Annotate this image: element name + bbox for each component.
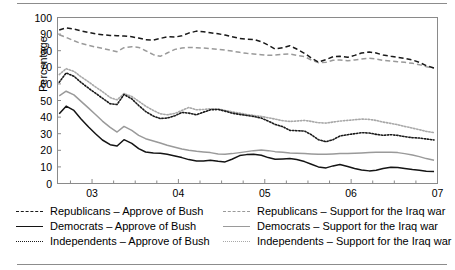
y-tick-label: 10 (26, 162, 52, 172)
legend-item: Democrats – Approve of Bush (16, 220, 223, 232)
y-tick-label: 40 (26, 112, 52, 122)
y-tick-label: 20 (26, 145, 52, 155)
chart-legend: Republicans – Approve of BushRepublicans… (16, 205, 444, 250)
legend-swatch (223, 222, 250, 231)
y-tick-label: 70 (26, 62, 52, 72)
x-tick-label: 04 (163, 188, 193, 198)
legend-label: Independents – Approve of Bush (50, 235, 210, 247)
bottom-divider (17, 264, 447, 265)
x-tick-label: 07 (423, 188, 453, 198)
legend-label: Independents – Support for the Iraq war (257, 235, 451, 247)
legend-item: Republicans – Support for the Iraq war (223, 205, 430, 217)
figure: Percentage 0102030405060708090100 030405… (0, 0, 455, 270)
legend-swatch (16, 237, 43, 246)
x-tick-label: 05 (250, 188, 280, 198)
legend-label: Republicans – Approve of Bush (50, 205, 204, 217)
legend-swatch (223, 207, 250, 216)
y-tick-label: 90 (26, 29, 52, 39)
legend-label: Republicans – Support for the Iraq war (257, 205, 445, 217)
legend-item: Democrats – Support for the Iraq war (223, 220, 430, 232)
series-line (59, 35, 434, 68)
y-tick-label: 30 (26, 129, 52, 139)
y-tick-label: 60 (26, 79, 52, 89)
series-line (59, 91, 434, 160)
series-line (59, 28, 434, 68)
x-tick-label: 06 (336, 188, 366, 198)
legend-label: Democrats – Approve of Bush (50, 220, 196, 232)
legend-row: Democrats – Approve of BushDemocrats – S… (16, 220, 444, 235)
legend-swatch (16, 207, 43, 216)
legend-row: Republicans – Approve of BushRepublicans… (16, 205, 444, 220)
chart-canvas (0, 0, 455, 200)
y-tick-label: 80 (26, 46, 52, 56)
legend-item: Independents – Approve of Bush (16, 235, 223, 247)
y-tick-label: 100 (26, 13, 52, 23)
series-line (59, 69, 434, 133)
plot-area: Percentage 0102030405060708090100 030405… (0, 0, 455, 200)
legend-item: Republicans – Approve of Bush (16, 205, 223, 217)
legend-label: Democrats – Support for the Iraq war (257, 220, 438, 232)
x-tick-label: 03 (77, 188, 107, 198)
legend-swatch (223, 237, 250, 246)
legend-row: Independents – Approve of BushIndependen… (16, 235, 444, 250)
legend-swatch (16, 222, 43, 231)
y-tick-label: 0 (26, 179, 52, 189)
legend-item: Independents – Support for the Iraq war (223, 235, 430, 247)
y-tick-label: 50 (26, 96, 52, 106)
